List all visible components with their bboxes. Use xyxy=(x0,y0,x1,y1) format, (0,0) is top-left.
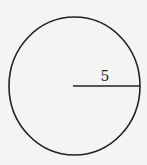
circle-diagram: 5 xyxy=(0,0,147,165)
circle-figure: 5 xyxy=(0,0,147,165)
background xyxy=(0,0,147,165)
radius-label: 5 xyxy=(101,68,110,84)
